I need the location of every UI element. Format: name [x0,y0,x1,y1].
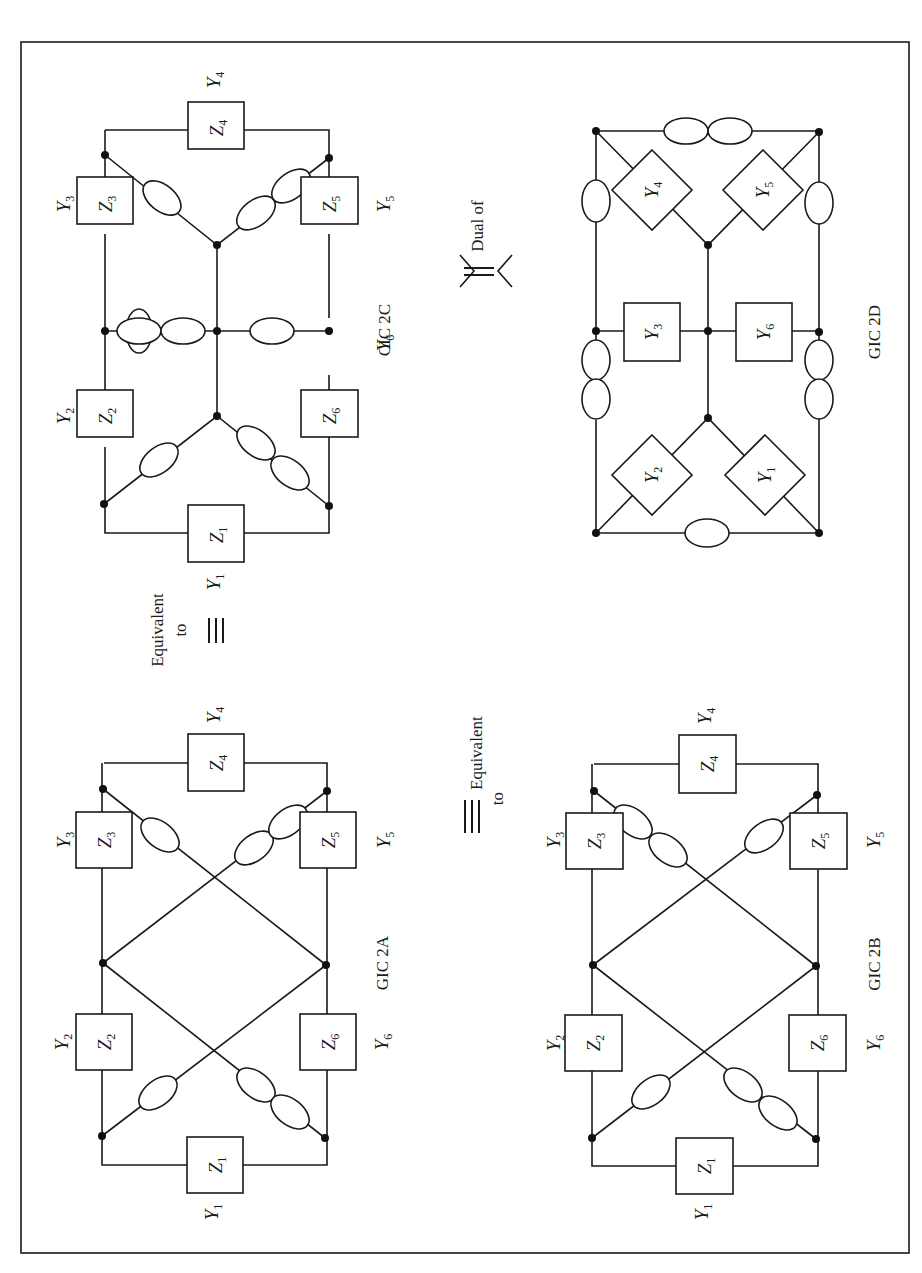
circuit-figure: Z4 Z3 Z2 Z5 Z6 Z1 Y4 Y3 Y2 Y5 Y6 Y1 CIC … [0,0,922,1273]
circuit-cic2c: Z4 Z3 Z2 Z5 Z6 Z1 Y4 Y3 Y2 Y5 Y6 Y1 CIC … [53,72,397,591]
junction-node [815,128,823,136]
junction-node [590,787,598,795]
admittance-label: Y6 [371,1034,395,1051]
gyrator-ellipse [250,318,294,344]
gyrator-ellipse [708,118,752,144]
junction-node [704,241,712,249]
admittance-label: Y2 [53,408,77,425]
gyrator-ellipse [626,1068,677,1116]
junction-node [589,961,597,969]
equivalence-symbol-icon [209,618,223,643]
gyrator-ellipse [685,519,729,547]
junction-node [325,327,333,335]
gyrator-ellipse [805,379,833,419]
relation-equivalent-2a-2b: Equivalent to [465,716,507,833]
gyrator-ellipse [739,812,790,859]
junction-node [100,500,108,508]
gyrator-ellipse [133,1069,184,1117]
admittance-label: Y4 [203,72,227,89]
junction-node [322,961,330,969]
junction-node [813,791,821,799]
junction-node [213,412,221,420]
gyrator-ellipse [805,182,833,224]
junction-node [812,1135,820,1143]
gyrator-ellipse [582,180,610,222]
gyrator-ellipse [582,379,610,419]
admittance-label: Y3 [53,832,77,849]
junction-node [98,1132,106,1140]
admittance-label: Y1 [201,1204,225,1221]
junction-node [592,327,600,335]
svg-text:Dual of: Dual of [468,200,487,252]
junction-node [325,502,333,510]
admittance-label: Y3 [53,196,77,213]
gyrator-ellipse [135,811,186,859]
junction-node [321,1134,329,1142]
junction-node [812,962,820,970]
junction-node [213,241,221,249]
junction-node [101,327,109,335]
equivalence-symbol-icon [465,800,479,833]
junction-node [99,785,107,793]
junction-node [704,327,712,335]
svg-text:to: to [488,792,507,805]
junction-node [815,529,823,537]
circuit-caption: GIC 2B [865,937,884,990]
gyrator-ellipse [582,340,610,380]
gyrator-ellipse [134,436,185,484]
junction-node [323,787,331,795]
admittance-label: Y1 [691,1204,715,1221]
junction-node [325,154,333,162]
admittance-label: Y1 [203,574,227,591]
admittance-label: Y5 [373,832,397,849]
svg-text:Equivalent: Equivalent [148,593,167,667]
junction-node [592,529,600,537]
admittance-label: Y4 [203,707,227,724]
admittance-label: Y5 [373,196,397,213]
relation-equivalent-2a-2c: Equivalent to [148,593,223,667]
admittance-label: Y3 [543,832,567,849]
junction-node [101,151,109,159]
gyrator-ellipse [664,118,708,144]
svg-text:to: to [171,623,190,636]
gyrator-ellipse [161,318,205,344]
admittance-label: Y2 [51,1034,75,1051]
circuit-gic2a: Z4 Z3 Z2 Z5 Z6 Z1 Y4 Y3 Y2 Y5 Y6 Y1 GIC … [51,707,397,1221]
junction-node [588,1134,596,1142]
gyrator-ellipse [117,318,161,344]
admittance-label: Y5 [863,832,887,849]
admittance-label: Y4 [694,708,718,725]
relation-dual-2c-2d: Dual of [460,200,512,287]
junction-node [213,327,221,335]
svg-text:Equivalent: Equivalent [467,716,486,790]
gyrator-ellipse [805,340,833,380]
admittance-label: Y6 [863,1035,887,1052]
circuit-caption: CIC 2C [375,304,394,356]
admittance-label: Y2 [543,1035,567,1052]
junction-node [592,127,600,135]
junction-node [99,959,107,967]
junction-node [815,328,823,336]
circuit-gic2d: Y4 Y5 Y2 Y1 Y3 Y6 GIC 2D [582,118,884,547]
circuit-caption: GIC 2D [865,305,884,359]
junction-node [704,414,712,422]
circuit-caption: GIC 2A [373,935,392,990]
circuit-gic2b: Z4 Z3 Z2 Z5 Z6 Z1 Y4 Y3 Y2 Y5 Y6 Y1 GIC … [543,708,887,1221]
double-arrow-icon [460,255,512,287]
